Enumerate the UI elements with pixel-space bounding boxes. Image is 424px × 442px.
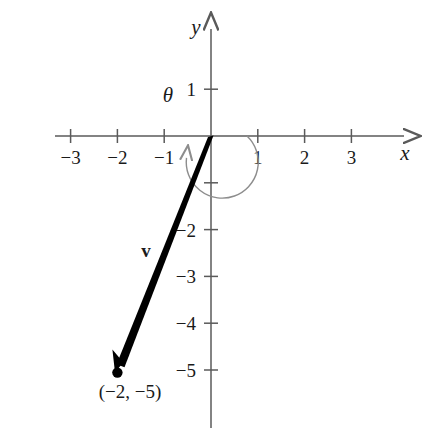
x-tick-label--2: −2 [107, 147, 127, 168]
axes-group [55, 29, 404, 428]
coordinate-plane-svg: −3 −2 −1 1 2 3 1 −2 −3 −4 −5 x y θ [0, 0, 424, 442]
x-axis-label: x [399, 141, 410, 165]
y-tick-label--3: −3 [176, 266, 196, 287]
endpoint-coordinate-label: (−2, −5) [99, 381, 162, 403]
y-tick-label--5: −5 [176, 360, 196, 381]
x-tick-label-2: 2 [300, 147, 310, 168]
vector-v-label: v [141, 240, 151, 261]
vector-endpoint-dot [112, 367, 122, 377]
y-tick-label-1: 1 [187, 79, 197, 100]
figure-canvas: −3 −2 −1 1 2 3 1 −2 −3 −4 −5 x y θ [0, 0, 424, 442]
y-axis-label: y [189, 15, 201, 39]
x-tick-label--3: −3 [60, 147, 80, 168]
y-tick-label--4: −4 [176, 313, 197, 334]
x-tick-label-3: 3 [347, 147, 357, 168]
x-tick-label--1: −1 [154, 147, 174, 168]
vector-v-shaft [117, 136, 214, 368]
vector-v-group [112, 136, 213, 378]
theta-label: θ [163, 83, 173, 107]
